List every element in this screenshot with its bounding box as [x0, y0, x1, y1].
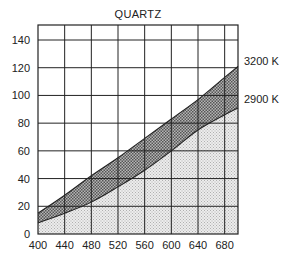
y-tick-label: 100	[12, 89, 30, 101]
series-label-2900k: 2900 K	[244, 93, 280, 105]
x-tick-label: 680	[215, 239, 233, 251]
y-tick-label: 40	[18, 173, 30, 185]
y-tick-label: 20	[18, 200, 30, 212]
y-tick-label: 120	[12, 62, 30, 74]
x-tick-label: 560	[135, 239, 153, 251]
x-tick-label: 520	[109, 239, 127, 251]
y-tick-label: 60	[18, 145, 30, 157]
x-tick-label: 440	[55, 239, 73, 251]
chart-title: QUARTZ	[115, 8, 162, 20]
series-label-3200k: 3200 K	[244, 55, 280, 67]
y-tick-label: 140	[12, 34, 30, 46]
x-tick-label: 480	[82, 239, 100, 251]
quartz-chart: QUARTZ 020406080100120140 40044048052056…	[0, 0, 288, 270]
x-tick-label: 640	[189, 239, 207, 251]
x-tick-label: 600	[162, 239, 180, 251]
x-tick-label: 400	[29, 239, 47, 251]
y-tick-label: 80	[18, 117, 30, 129]
